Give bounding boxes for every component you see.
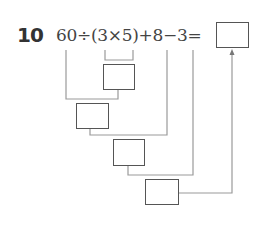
- connector-answer: [179, 52, 232, 193]
- worksheet-problem: 10 60÷(3×5)+8−3=: [0, 0, 268, 225]
- answer-box[interactable]: [216, 22, 249, 48]
- step2-box[interactable]: [76, 103, 109, 129]
- step3-box[interactable]: [113, 139, 145, 166]
- parenthesis-bracket: [105, 50, 133, 60]
- step4-box[interactable]: [145, 179, 179, 205]
- arrow-up-icon: [230, 49, 235, 55]
- step1-box[interactable]: [103, 64, 135, 90]
- expression: 60÷(3×5)+8−3=: [56, 21, 201, 49]
- problem-number: 10: [17, 22, 43, 48]
